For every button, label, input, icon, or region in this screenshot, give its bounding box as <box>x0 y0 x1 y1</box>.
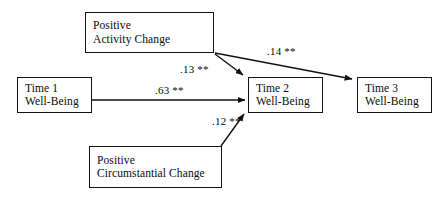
node-time-2-well-being[interactable]: Time 2 Well-Being <box>248 77 323 113</box>
node-label-line1: Time 2 <box>256 82 322 96</box>
node-label-line1: Positive <box>93 19 213 33</box>
node-time-3-well-being[interactable]: Time 3 Well-Being <box>357 77 432 113</box>
path-label-time1-to-time2: .63 ** <box>155 84 184 96</box>
path-label-activity-to-time3: .14 ** <box>267 45 296 57</box>
node-positive-activity-change[interactable]: Positive Activity Change <box>85 12 214 53</box>
node-label-line2: Well-Being <box>25 95 91 109</box>
node-label-line1: Time 3 <box>365 82 431 96</box>
node-positive-circumstantial-change[interactable]: Positive Circumstantial Change <box>89 146 222 188</box>
node-label-line2: Well-Being <box>256 95 322 109</box>
node-label-line2: Activity Change <box>93 33 213 47</box>
node-label-line1: Positive <box>97 154 221 168</box>
node-label-line1: Time 1 <box>25 82 91 96</box>
path-label-circumstantial-to-time2: .12 ** <box>212 115 241 127</box>
node-label-line2: Circumstantial Change <box>97 167 221 181</box>
node-label-line2: Well-Being <box>365 95 431 109</box>
node-time-1-well-being[interactable]: Time 1 Well-Being <box>17 77 92 113</box>
path-diagram: Positive Activity Change Time 1 Well-Bei… <box>0 0 448 200</box>
path-label-activity-to-time2: .13 ** <box>180 63 209 75</box>
